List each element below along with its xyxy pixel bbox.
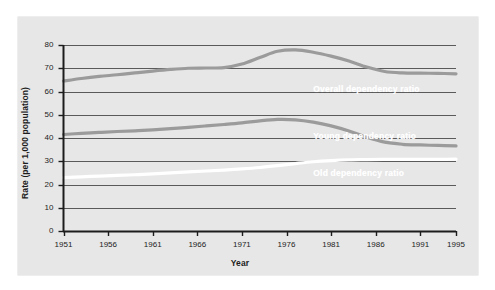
y-axis-title: Rate (per 1,000 population) — [20, 63, 30, 223]
y-tick-label: 30 — [32, 156, 54, 165]
y-tick-label: 60 — [32, 87, 54, 96]
x-tick-label: 1966 — [180, 240, 214, 249]
x-tick-label: 1995 — [439, 240, 473, 249]
x-axis-title: Year — [200, 258, 280, 268]
x-tick-label: 1961 — [136, 240, 170, 249]
x-tick-label: 1976 — [270, 240, 304, 249]
series-line-0 — [64, 50, 457, 81]
x-tick-label: 1981 — [314, 240, 348, 249]
y-tick-label: 0 — [32, 226, 54, 235]
chart-figure: Rate (per 1,000 population) Year 0102030… — [0, 0, 495, 290]
series-label-0: Overall dependency ratio — [313, 84, 419, 94]
x-tick-label: 1971 — [225, 240, 259, 249]
x-tick-label: 1986 — [359, 240, 393, 249]
y-tick-label: 20 — [32, 180, 54, 189]
y-tick-label: 70 — [32, 63, 54, 72]
y-tick-label: 10 — [32, 203, 54, 212]
x-tick-label: 1951 — [47, 240, 81, 249]
series-label-1: Young dependency ratio — [313, 131, 416, 141]
y-tick-label: 40 — [32, 133, 54, 142]
y-tick-label: 80 — [32, 40, 54, 49]
y-tick-label: 50 — [32, 110, 54, 119]
x-tick-label: 1991 — [403, 240, 437, 249]
series-label-2: Old dependency ratio — [313, 168, 404, 178]
x-tick-label: 1956 — [91, 240, 125, 249]
